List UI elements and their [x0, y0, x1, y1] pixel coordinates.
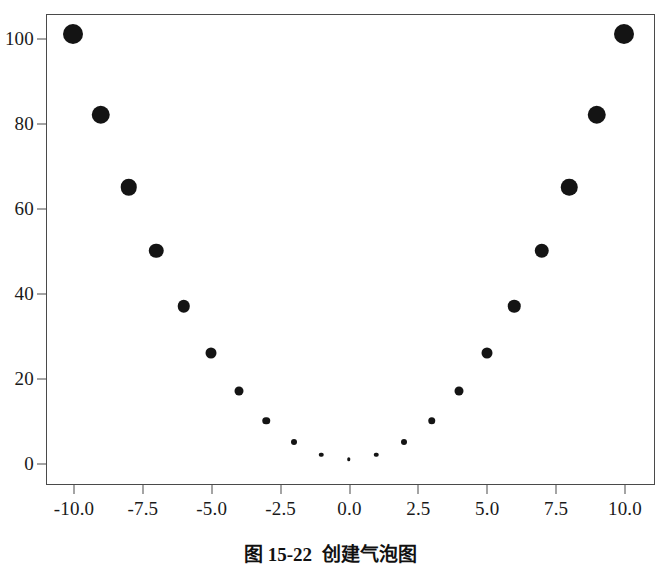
figure-caption: 图 15-22创建气泡图 [0, 540, 661, 568]
bubble-point [177, 300, 190, 313]
bubble-point [234, 387, 243, 396]
y-tick-mark [37, 379, 46, 380]
x-axis: -10.0-7.5-5.0-2.50.02.55.07.510.0 [0, 485, 661, 525]
x-tick-label: 5.0 [475, 498, 499, 520]
x-tick-mark [349, 485, 350, 494]
x-tick-mark [556, 485, 557, 494]
bubble-point [120, 179, 137, 196]
bubble-point [374, 453, 379, 458]
y-tick-label: 60 [15, 198, 34, 220]
bubble-point [561, 179, 578, 196]
x-tick-label: 0.0 [337, 498, 361, 520]
bubble-point [347, 457, 351, 461]
y-tick-label: 40 [15, 283, 34, 305]
bubble-point [508, 300, 521, 313]
bubble-point [149, 244, 164, 259]
x-tick-label: -10.0 [54, 498, 95, 520]
figure-page: 020406080100 -10.0-7.5-5.0-2.50.02.55.07… [0, 0, 661, 568]
x-tick-label: -5.0 [196, 498, 227, 520]
bubble-chart-figure: 020406080100 -10.0-7.5-5.0-2.50.02.55.07… [0, 0, 661, 525]
x-tick-mark [625, 485, 626, 494]
y-tick-mark [37, 124, 46, 125]
y-tick-mark [37, 464, 46, 465]
bubble-point [588, 106, 607, 125]
plot-area [46, 14, 655, 485]
bubble-point [319, 453, 324, 458]
data-points-layer [47, 15, 654, 484]
y-tick-label: 0 [24, 453, 34, 475]
bubble-point [206, 347, 217, 358]
x-tick-mark [142, 485, 143, 494]
x-tick-label: -2.5 [265, 498, 296, 520]
y-tick-label: 20 [15, 368, 34, 390]
bubble-point [92, 106, 111, 125]
y-tick-label: 80 [15, 113, 34, 135]
bubble-point [535, 244, 550, 259]
y-tick-mark [37, 39, 46, 40]
x-tick-label: 7.5 [544, 498, 568, 520]
x-tick-mark [211, 485, 212, 494]
x-tick-label: -7.5 [127, 498, 158, 520]
bubble-point [614, 24, 634, 44]
bubble-point [401, 439, 407, 445]
bubble-point [455, 387, 464, 396]
x-tick-mark [487, 485, 488, 494]
x-tick-mark [74, 485, 75, 494]
bubble-point [63, 24, 83, 44]
x-tick-label: 10.0 [608, 498, 642, 520]
caption-number: 图 15-22 [244, 544, 312, 565]
bubble-point [481, 347, 492, 358]
x-tick-mark [280, 485, 281, 494]
y-axis: 020406080100 [0, 0, 46, 525]
bubble-point [291, 439, 297, 445]
bubble-point [263, 417, 271, 425]
y-tick-mark [37, 209, 46, 210]
y-tick-mark [37, 294, 46, 295]
x-tick-mark [418, 485, 419, 494]
y-tick-label: 100 [5, 28, 34, 50]
bubble-point [428, 417, 436, 425]
caption-title: 创建气泡图 [322, 544, 417, 565]
x-tick-label: 2.5 [406, 498, 430, 520]
